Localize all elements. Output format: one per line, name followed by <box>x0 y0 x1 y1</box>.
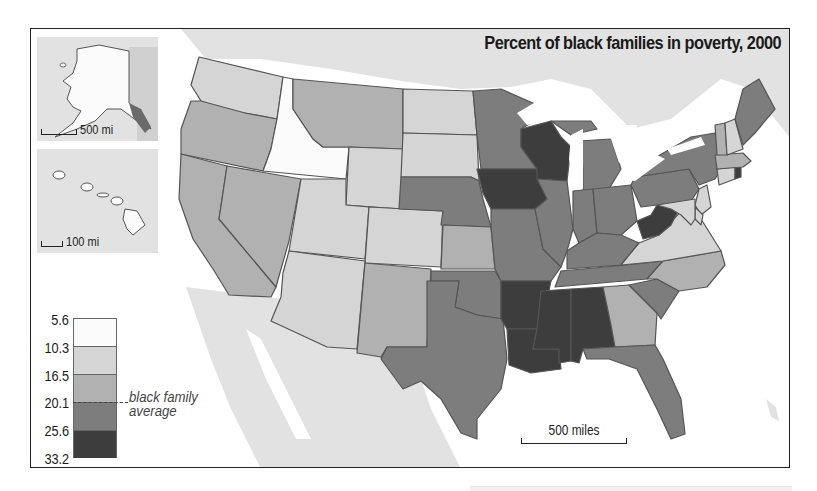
state-SD <box>401 133 479 181</box>
state-CO <box>365 207 443 267</box>
oahu <box>81 183 93 191</box>
main-scale-label: 500 miles <box>529 422 619 438</box>
maui <box>111 197 123 205</box>
hawaii-inset: 100 mi <box>37 149 158 253</box>
main-scale: 500 miles <box>521 428 627 444</box>
legend-band-1 <box>74 319 116 347</box>
state-ND <box>403 89 477 135</box>
legend-band-4 <box>74 403 116 431</box>
state-CT <box>717 167 735 185</box>
state-WY <box>346 147 403 209</box>
average-label: black family average <box>129 390 198 418</box>
kauai <box>53 171 65 179</box>
legend-break-2: 16.5 <box>44 368 69 383</box>
state-RI <box>735 167 741 179</box>
legend-band-5 <box>74 431 116 458</box>
legend-break-4: 25.6 <box>44 423 69 438</box>
big-island <box>123 209 145 235</box>
main-scale-bar <box>521 438 627 444</box>
alaska-inset: 500 mi <box>37 37 158 141</box>
molokai <box>97 193 109 197</box>
bahamas <box>766 399 779 421</box>
legend-break-5: 33.2 <box>44 451 69 466</box>
alaska-scale-bar <box>41 129 77 135</box>
legend-break-0: 5.6 <box>51 312 69 327</box>
legend-color-scale <box>73 318 117 458</box>
below-frame-strip <box>470 486 792 491</box>
alaska-scale-label: 500 mi <box>80 122 113 137</box>
legend-break-1: 10.3 <box>44 340 69 355</box>
average-label-line2: average <box>129 404 198 418</box>
lake-superior <box>517 93 605 125</box>
hawaii-scale: 100 mi <box>41 234 105 249</box>
legend-band-3 <box>74 375 116 403</box>
alaska-scale: 500 mi <box>41 122 119 137</box>
average-dashed-line <box>73 402 128 403</box>
hawaii-scale-bar <box>41 241 63 247</box>
state-NM <box>357 263 431 357</box>
legend: 5.6 10.3 16.5 20.1 25.6 33.2 black famil… <box>31 318 161 468</box>
map-frame: Percent of black families in poverty, 20… <box>30 28 790 468</box>
hawaii-scale-label: 100 mi <box>66 234 99 249</box>
lake-michigan <box>569 129 583 189</box>
state-KS <box>441 225 495 269</box>
legend-break-3: 20.1 <box>44 395 69 410</box>
state-OH <box>593 185 637 235</box>
map-title: Percent of black families in poverty, 20… <box>484 32 781 54</box>
legend-band-2 <box>74 347 116 375</box>
